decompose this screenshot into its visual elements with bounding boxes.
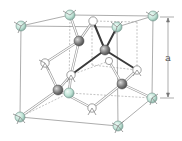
face-atom bbox=[89, 17, 97, 25]
interior-atom bbox=[100, 45, 110, 55]
interior-atom bbox=[117, 79, 127, 89]
lattice-constant-label: a bbox=[165, 52, 171, 63]
face-atoms bbox=[41, 17, 141, 112]
crystal-unit-cell-diagram: a bbox=[0, 0, 182, 141]
interior-atoms bbox=[53, 36, 127, 95]
interior-atom bbox=[53, 85, 63, 95]
interior-atom bbox=[74, 36, 84, 46]
face-atom bbox=[105, 57, 112, 64]
corner-atom bbox=[64, 88, 74, 98]
